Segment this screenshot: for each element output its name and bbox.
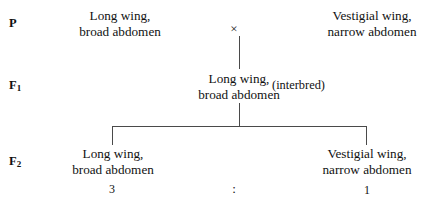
bracket-horizontal: [112, 126, 367, 127]
p-right-parent-line1: Vestigial wing,: [328, 8, 417, 24]
f1-offspring-line1: Long wing,: [198, 71, 280, 87]
generation-label-f2: F2: [9, 155, 21, 169]
bracket-right-drop: [366, 126, 367, 145]
genetics-cross-diagram: P Long wing, broad abdomen × Vestigial w…: [0, 0, 433, 202]
generation-label-f1: F1: [9, 79, 21, 93]
f2-left-offspring-line2: broad abdomen: [72, 162, 154, 178]
generation-label-f1-subscript: 1: [17, 83, 22, 93]
f2-ratio-left-value: 3: [109, 183, 115, 195]
generation-label-f1-text: F: [9, 78, 17, 92]
p-right-parent-line2: narrow abdomen: [328, 24, 417, 40]
f2-ratio-separator: :: [232, 182, 236, 195]
f2-left-offspring-line1: Long wing,: [72, 146, 154, 162]
connector-f1-to-bracket: [239, 103, 240, 127]
f2-ratio-right-value: 1: [364, 184, 370, 196]
f1-offspring-phenotype: Long wing, broad abdomen: [198, 71, 280, 102]
f2-right-offspring-phenotype: Vestigial wing, narrow abdomen: [323, 146, 412, 177]
f2-right-offspring-line1: Vestigial wing,: [323, 146, 412, 162]
connector-p-to-f1: [239, 36, 240, 69]
generation-label-p: P: [9, 17, 17, 30]
p-left-parent-phenotype: Long wing, broad abdomen: [79, 8, 161, 39]
p-left-parent-line2: broad abdomen: [79, 24, 161, 40]
bracket-left-drop: [112, 126, 113, 145]
generation-label-p-text: P: [9, 16, 17, 30]
p-left-parent-line1: Long wing,: [79, 8, 161, 24]
f1-interbred-note: (interbred): [272, 79, 325, 91]
generation-label-f2-text: F: [9, 154, 17, 168]
f2-left-offspring-phenotype: Long wing, broad abdomen: [72, 146, 154, 177]
f1-offspring-line2: broad abdomen: [198, 87, 280, 103]
p-right-parent-phenotype: Vestigial wing, narrow abdomen: [328, 8, 417, 39]
generation-label-f2-subscript: 2: [17, 159, 22, 169]
f2-right-offspring-line2: narrow abdomen: [323, 162, 412, 178]
cross-symbol-icon: ×: [230, 22, 237, 35]
